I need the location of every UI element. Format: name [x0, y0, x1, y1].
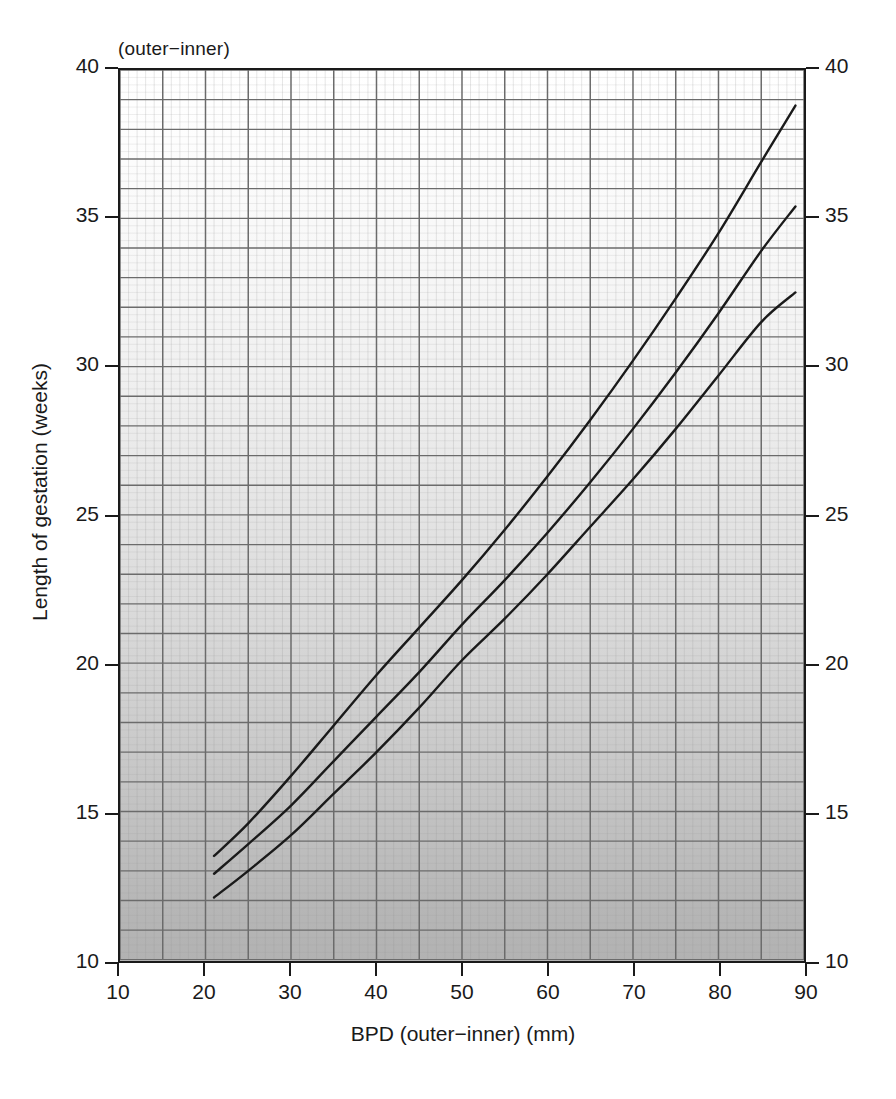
x-tick-10: [117, 963, 119, 976]
y-tick-label-left-25: 25: [53, 502, 99, 526]
y-tick-label-right-25: 25: [825, 502, 871, 526]
x-tick-label-60: 60: [523, 980, 573, 1004]
x-tick-label-70: 70: [609, 980, 659, 1004]
y-tick-label-left-20: 20: [53, 651, 99, 675]
x-tick-30: [289, 963, 291, 976]
y-tick-right-15: [806, 813, 819, 815]
y-tick-label-left-10: 10: [53, 949, 99, 973]
x-tick-label-30: 30: [265, 980, 315, 1004]
y-tick-left-30: [105, 365, 118, 367]
x-tick-50: [461, 963, 463, 976]
x-tick-60: [547, 963, 549, 976]
y-tick-label-right-30: 30: [825, 352, 871, 376]
gestation-bpd-chart: (outer−inner) Length of gestation (weeks…: [0, 0, 896, 1099]
y-tick-left-35: [105, 216, 118, 218]
x-tick-label-20: 20: [179, 980, 229, 1004]
y-tick-label-right-35: 35: [825, 203, 871, 227]
y-tick-label-left-35: 35: [53, 203, 99, 227]
y-tick-label-right-40: 40: [825, 54, 871, 78]
y-tick-left-25: [105, 515, 118, 517]
header-annotation: (outer−inner): [118, 38, 230, 60]
x-tick-40: [375, 963, 377, 976]
x-tick-70: [633, 963, 635, 976]
x-tick-label-80: 80: [695, 980, 745, 1004]
x-tick-label-50: 50: [437, 980, 487, 1004]
y-tick-left-20: [105, 664, 118, 666]
curve-upper-centile: [214, 106, 795, 856]
y-tick-label-left-15: 15: [53, 800, 99, 824]
y-tick-right-25: [806, 515, 819, 517]
x-tick-80: [719, 963, 721, 976]
x-tick-90: [805, 963, 807, 976]
x-tick-label-40: 40: [351, 980, 401, 1004]
y-tick-right-10: [806, 962, 819, 964]
y-tick-label-left-40: 40: [53, 54, 99, 78]
x-tick-20: [203, 963, 205, 976]
x-axis-title: BPD (outer−inner) (mm): [198, 1022, 728, 1046]
y-tick-label-right-10: 10: [825, 949, 871, 973]
y-tick-left-15: [105, 813, 118, 815]
curve-median-centile: [214, 206, 795, 873]
y-tick-label-right-15: 15: [825, 800, 871, 824]
plot-area: [118, 68, 806, 963]
x-tick-label-10: 10: [93, 980, 143, 1004]
curve-lower-centile: [214, 292, 795, 897]
y-axis-title: Length of gestation (weeks): [28, 302, 52, 682]
y-tick-left-40: [105, 67, 118, 69]
y-tick-right-35: [806, 216, 819, 218]
centile-curves: [120, 70, 804, 960]
y-tick-label-left-30: 30: [53, 352, 99, 376]
y-tick-right-20: [806, 664, 819, 666]
y-tick-right-40: [806, 67, 819, 69]
y-tick-right-30: [806, 365, 819, 367]
x-tick-label-90: 90: [781, 980, 831, 1004]
y-tick-label-right-20: 20: [825, 651, 871, 675]
